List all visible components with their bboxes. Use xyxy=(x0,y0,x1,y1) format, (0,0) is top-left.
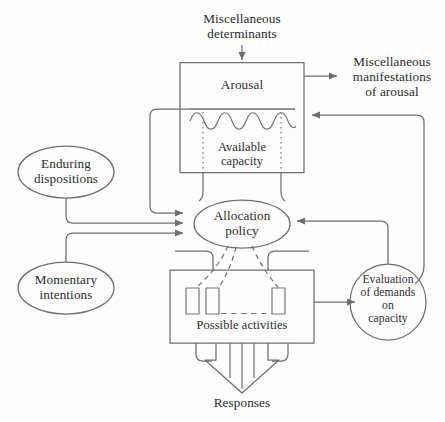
responses-leg-right xyxy=(272,343,288,361)
arousal-leg-left xyxy=(199,173,203,202)
activity-rect-2 xyxy=(206,288,219,314)
momentary-intentions-ellipse xyxy=(18,262,114,314)
responses-leg-left xyxy=(196,343,212,361)
edge-capacity-to-allocation xyxy=(150,109,189,213)
evaluation-circle-outline xyxy=(350,264,426,340)
edge-dispositions-to-allocation xyxy=(66,198,183,223)
activities-leg-right xyxy=(268,251,309,270)
allocation-curve-activity-3 xyxy=(252,246,278,287)
allocation-curve-activity-2 xyxy=(219,247,236,287)
arousal-leg-right xyxy=(281,173,285,202)
activity-rect-1 xyxy=(186,288,199,314)
activities-leg-left xyxy=(175,251,213,270)
possible-activities-box-outline xyxy=(170,270,314,343)
edge-evaluation-to-arousal xyxy=(312,115,424,284)
capacity-model-diagram: Miscellaneous determinants Arousal Avail… xyxy=(0,0,445,422)
capacity-wave-line xyxy=(190,113,296,130)
activity-rect-3 xyxy=(272,288,285,314)
arousal-box-outline xyxy=(180,63,304,173)
allocation-policy-ellipse xyxy=(194,200,290,248)
diagram-canvas xyxy=(0,0,445,422)
edge-evaluation-to-allocation xyxy=(297,221,388,264)
enduring-dispositions-ellipse xyxy=(18,146,114,198)
edge-intentions-to-allocation xyxy=(66,233,183,262)
